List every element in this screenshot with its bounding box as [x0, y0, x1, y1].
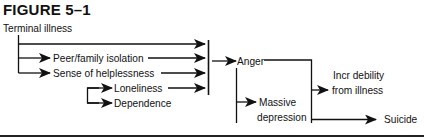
node-suicide: Suicide: [384, 113, 417, 126]
node-massive-depression-line2: depression: [257, 111, 307, 124]
node-loneliness: Loneliness: [114, 82, 162, 95]
node-massive-depression-line1: Massive: [259, 96, 296, 109]
node-peer-family-isolation: Peer/family isolation: [53, 52, 144, 65]
node-incr-debility-line2: from illness: [332, 84, 383, 97]
node-anger: Anger: [237, 55, 264, 68]
node-sense-of-helplessness: Sense of helplessness: [53, 67, 154, 80]
node-dependence: Dependence: [114, 97, 171, 110]
bracket-line: [88, 88, 100, 103]
node-incr-debility-line1: Incr debility: [333, 69, 384, 82]
bottom-rule: [0, 135, 424, 137]
node-terminal-illness: Terminal illness: [3, 22, 72, 35]
